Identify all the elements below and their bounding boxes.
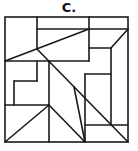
figure-line bbox=[5, 105, 49, 142]
figure-lines bbox=[5, 17, 128, 142]
geometric-figure bbox=[0, 0, 138, 151]
figure-line bbox=[49, 105, 85, 142]
figure-line bbox=[111, 29, 128, 48]
figure-line bbox=[5, 29, 89, 61]
